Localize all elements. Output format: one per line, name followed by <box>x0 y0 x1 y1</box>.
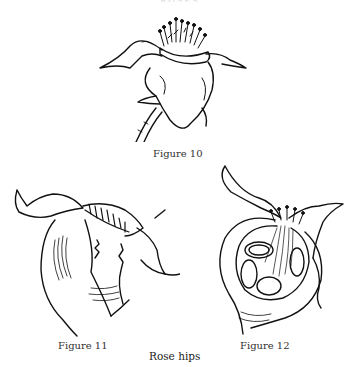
figure-11-illustration <box>5 180 180 340</box>
plate-title: Rose hips <box>149 350 200 362</box>
book-page: ROSES <box>0 0 355 367</box>
figure-11-caption: Figure 11 <box>58 340 108 351</box>
figure-10-caption: Figure 10 <box>153 148 203 159</box>
running-header: ROSES <box>90 0 270 2</box>
figure-10-illustration <box>90 12 270 142</box>
figure-12-illustration <box>185 162 355 340</box>
figure-12-caption: Figure 12 <box>240 340 290 351</box>
